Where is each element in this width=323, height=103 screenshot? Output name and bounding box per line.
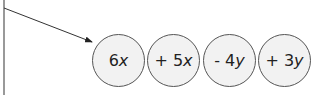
term-variable: x — [119, 51, 128, 70]
term-coefficient: + 3 — [265, 51, 294, 70]
term-variable: y — [235, 51, 244, 70]
term-variable: y — [294, 51, 303, 70]
term-circle-4: + 3y — [258, 34, 311, 87]
term-circle-3: - 4y — [203, 34, 256, 87]
term-circle-1: 6x — [92, 34, 145, 87]
term-coefficient: 6 — [109, 51, 119, 70]
pointer-arrow — [4, 8, 92, 42]
term-coefficient: + 5 — [154, 51, 183, 70]
term-circle-2: + 5x — [147, 34, 200, 87]
term-coefficient: - 4 — [214, 51, 235, 70]
term-variable: x — [183, 51, 192, 70]
